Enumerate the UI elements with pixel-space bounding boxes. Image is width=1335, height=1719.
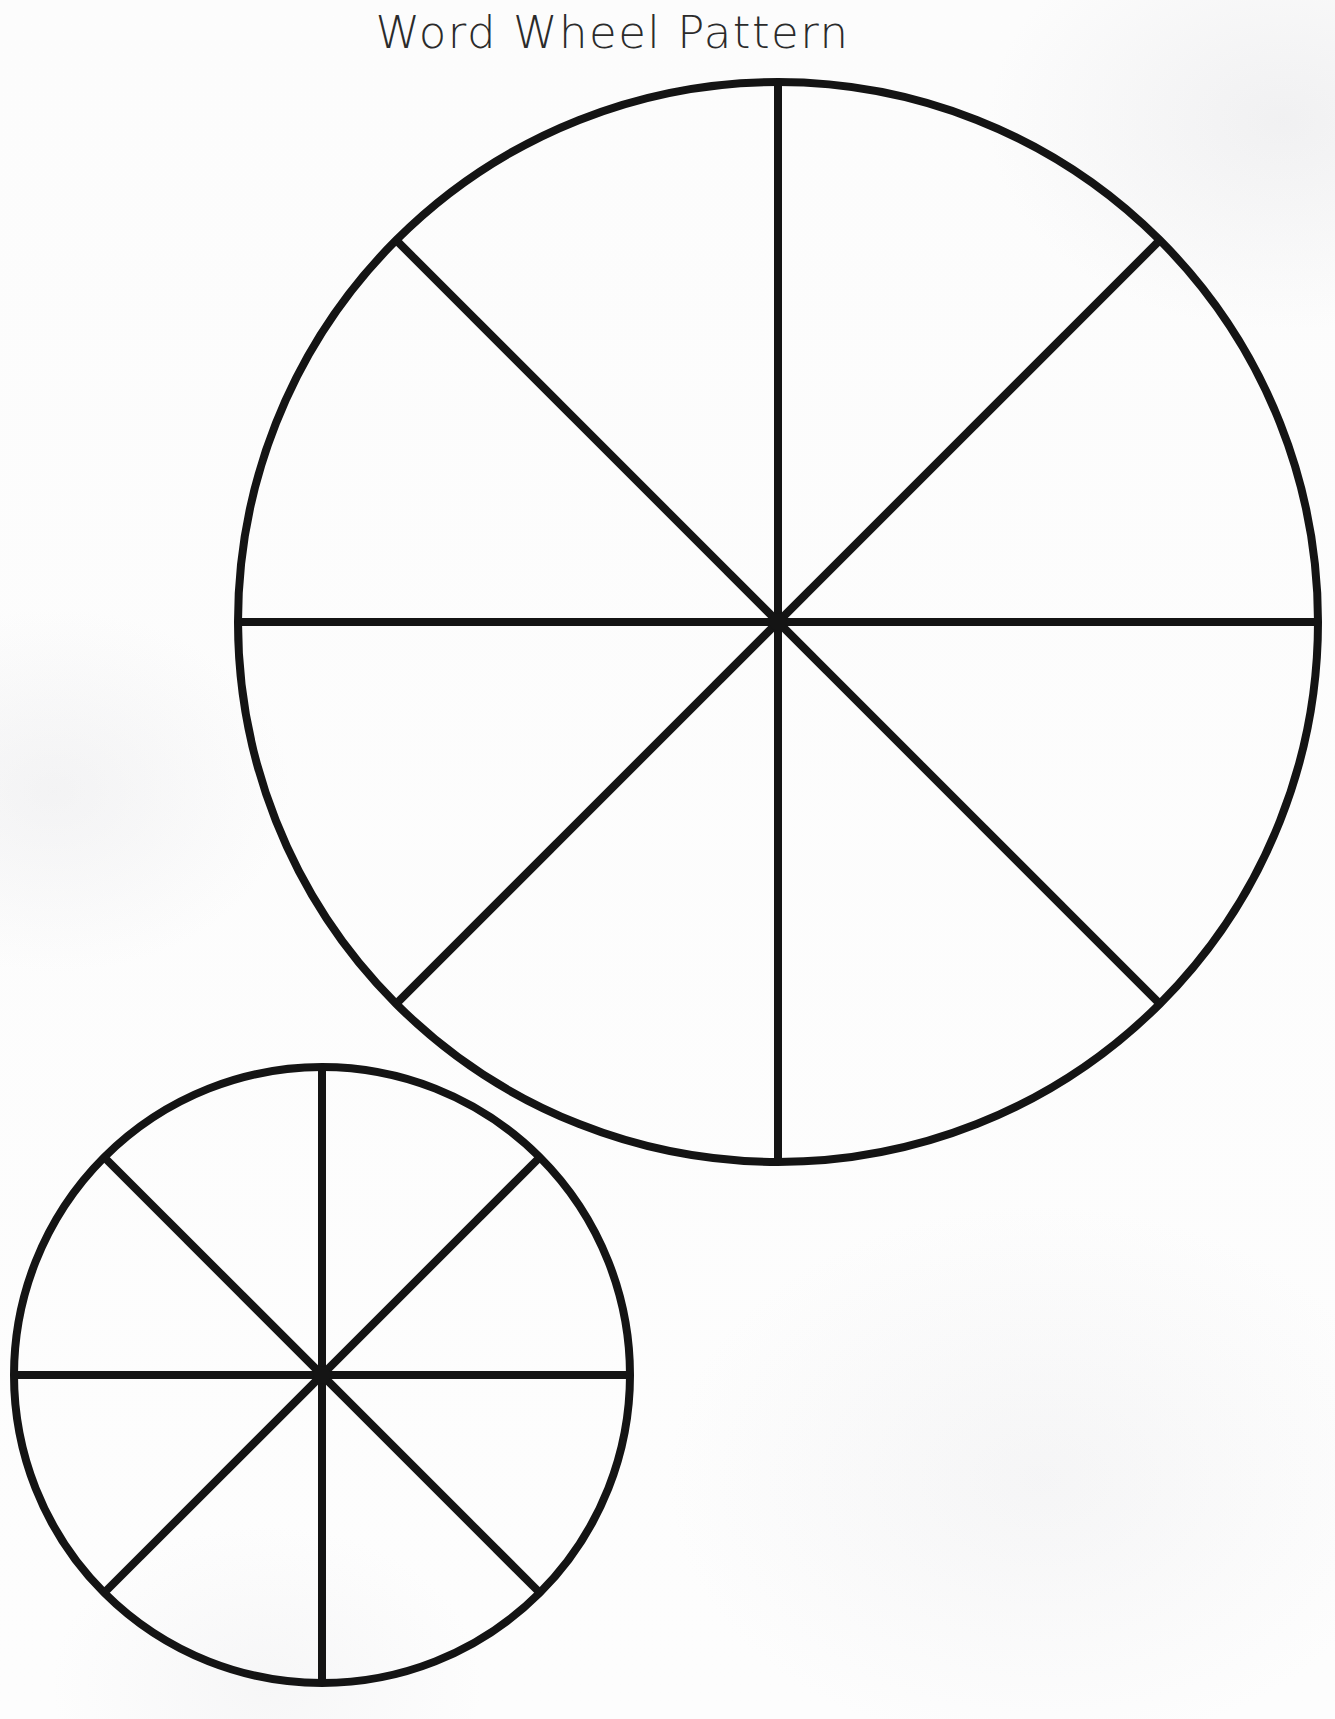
small-wheel-hub <box>313 1366 331 1384</box>
word-wheel-diagram <box>0 0 1335 1719</box>
worksheet-page: Word Wheel Pattern <box>0 0 1335 1719</box>
large-word-wheel <box>238 82 1318 1162</box>
small-word-wheel <box>14 1067 630 1683</box>
large-wheel-hub <box>769 613 787 631</box>
